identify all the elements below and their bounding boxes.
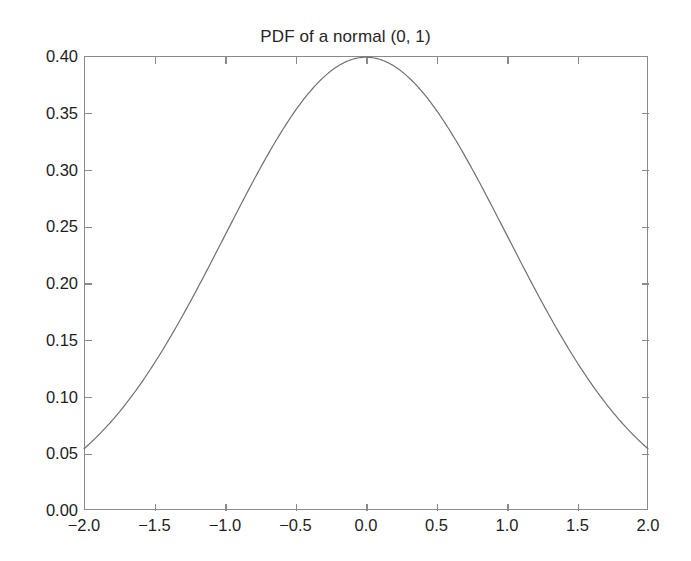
chart-title: PDF of a normal (0, 1) (0, 27, 691, 47)
y-axis-tick-labels: 0.000.050.100.150.200.250.300.350.40 (12, 0, 78, 561)
x-tick-label: 0.5 (397, 516, 477, 535)
x-axis-tick-labels: −2.0−1.5−1.0−0.50.00.51.01.52.0 (0, 516, 691, 546)
y-tick-label: 0.05 (18, 444, 78, 463)
y-tick-label: 0.40 (18, 47, 78, 66)
y-tick-label: 0.15 (18, 330, 78, 349)
y-tick-label: 0.30 (18, 160, 78, 179)
y-tick-label: 0.35 (18, 103, 78, 122)
y-tick-label: 0.10 (18, 387, 78, 406)
x-tick-label: 2.0 (608, 516, 688, 535)
plot-area (84, 56, 648, 510)
x-tick-label: −1.5 (115, 516, 195, 535)
y-tick-label: 0.25 (18, 217, 78, 236)
x-tick-label: −2.0 (44, 516, 124, 535)
y-tick-label: 0.20 (18, 274, 78, 293)
x-tick-label: 1.0 (467, 516, 547, 535)
x-tick-label: 1.5 (538, 516, 618, 535)
chart-figure: PDF of a normal (0, 1) 0.000.050.100.150… (0, 0, 691, 561)
x-tick-label: −0.5 (256, 516, 336, 535)
x-tick-label: −1.0 (185, 516, 265, 535)
x-tick-label: 0.0 (326, 516, 406, 535)
normal-pdf-curve (84, 56, 648, 510)
